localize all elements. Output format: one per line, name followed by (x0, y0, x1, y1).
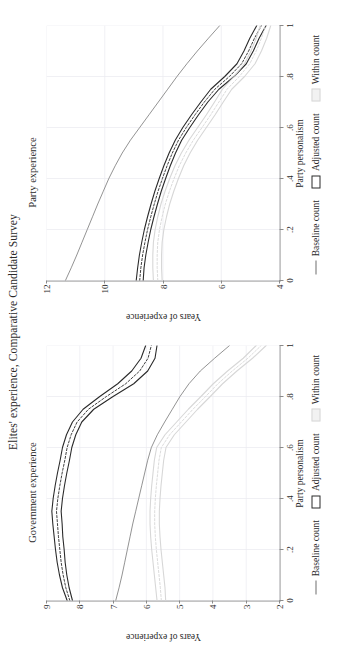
y-tick-mark (46, 600, 47, 604)
series-line (115, 345, 229, 600)
legend-item-baseline-right[interactable]: Baseline count (310, 200, 320, 274)
x-axis-label-left: Party personalism (294, 345, 304, 601)
legend-label-baseline-right: Baseline count (310, 200, 320, 256)
y-tick-label: 6 (141, 604, 151, 609)
legend-label-within-left: Within count (310, 354, 320, 404)
series-line (56, 345, 151, 600)
legend-item-within-right[interactable]: Within count (310, 34, 320, 101)
x-tick-mark (279, 447, 283, 448)
y-tick-mark (212, 600, 213, 604)
x-tick-label: 0 (284, 598, 294, 603)
light-box-key-icon (311, 408, 320, 421)
legend-item-adjusted-right[interactable]: Adjusted count (310, 113, 320, 188)
series-line (150, 345, 256, 600)
legend-right: Baseline count Adjusted count Within cou… (306, 21, 324, 287)
series-line (61, 345, 157, 600)
x-tick-label: .2 (284, 226, 294, 233)
y-tick-mark (145, 600, 146, 604)
y-tick-mark (112, 600, 113, 604)
legend-item-baseline-left[interactable]: Baseline count (310, 520, 320, 594)
plot-area-right: 46810120.2.4.6.81 (46, 25, 280, 281)
y-tick-mark (220, 280, 221, 284)
x-tick-mark (279, 76, 283, 77)
y-tick-label: 4 (274, 284, 284, 289)
x-tick-label: .2 (284, 546, 294, 553)
x-tick-mark (279, 127, 283, 128)
figure-stage: Elites' experience, Comparative Candidat… (0, 0, 347, 663)
x-tick-mark (279, 280, 283, 281)
box-key-icon (311, 495, 320, 508)
line-key-icon (315, 260, 316, 274)
legend-item-adjusted-left[interactable]: Adjusted count (310, 433, 320, 508)
plot-area-left: 234567890.2.4.6.81 (46, 345, 280, 601)
legend-item-within-left[interactable]: Within count (310, 354, 320, 421)
y-tick-mark (245, 600, 246, 604)
panel-title-right: Party experience (26, 17, 37, 327)
panel-title-left: Government experience (26, 337, 37, 647)
y-axis-label-right-text: Years of experience (125, 312, 200, 322)
series-line (159, 345, 266, 600)
y-tick-label: 4 (207, 604, 217, 609)
y-tick-mark (162, 280, 163, 284)
panel-government-experience: Government experience Years of experienc… (26, 337, 326, 647)
light-box-key-icon (311, 88, 320, 101)
y-axis-label-right: Years of experience (46, 309, 280, 325)
y-tick-mark (79, 600, 80, 604)
x-axis-label-right: Party personalism (294, 25, 304, 281)
y-tick-label: 7 (108, 604, 118, 609)
legend-label-adjusted-left: Adjusted count (310, 433, 320, 491)
y-tick-label: 8 (74, 604, 84, 609)
figure-title: Elites' experience, Comparative Candidat… (6, 0, 18, 663)
y-tick-mark (179, 600, 180, 604)
x-tick-label: 1 (284, 343, 294, 348)
y-tick-label: 10 (99, 284, 109, 293)
series-line (161, 25, 270, 280)
y-tick-label: 6 (216, 284, 226, 289)
x-tick-label: 1 (284, 23, 294, 28)
x-tick-mark (279, 549, 283, 550)
x-tick-label: .8 (284, 73, 294, 80)
x-tick-mark (279, 178, 283, 179)
box-key-icon (311, 175, 320, 188)
series-line (143, 25, 266, 280)
x-tick-label: .6 (284, 124, 294, 131)
x-tick-label: .6 (284, 444, 294, 451)
y-axis-label-left: Years of experience (46, 629, 280, 645)
x-tick-mark (279, 600, 283, 601)
y-tick-mark (104, 280, 105, 284)
y-tick-label: 12 (41, 284, 51, 293)
y-tick-label: 8 (158, 284, 168, 289)
legend-label-adjusted-right: Adjusted count (310, 113, 320, 171)
y-axis-label-left-text: Years of experience (125, 632, 200, 642)
line-key-icon (315, 580, 316, 594)
x-tick-label: .8 (284, 393, 294, 400)
x-tick-label: .4 (284, 495, 294, 502)
legend-label-baseline-left: Baseline count (310, 520, 320, 576)
legend-left: Baseline count Adjusted count Within cou… (306, 341, 324, 607)
y-tick-label: 9 (41, 604, 51, 609)
series-line (139, 25, 261, 280)
x-tick-label: .4 (284, 175, 294, 182)
y-tick-label: 5 (174, 604, 184, 609)
series-line (152, 25, 259, 280)
series-line (154, 345, 261, 600)
legend-label-within-right: Within count (310, 34, 320, 84)
y-tick-label: 3 (241, 604, 251, 609)
panel-party-experience: Party experience Years of experience 468… (26, 17, 326, 327)
x-tick-mark (279, 345, 283, 346)
x-tick-mark (279, 396, 283, 397)
x-tick-mark (279, 25, 283, 26)
y-tick-mark (46, 280, 47, 284)
y-tick-label: 2 (274, 604, 284, 609)
x-tick-mark (279, 498, 283, 499)
x-tick-mark (279, 229, 283, 230)
x-tick-label: 0 (284, 278, 294, 283)
